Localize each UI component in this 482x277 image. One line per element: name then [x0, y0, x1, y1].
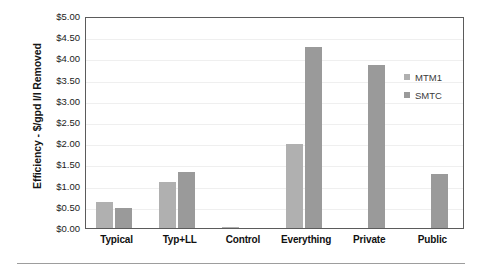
legend-swatch-icon — [404, 74, 410, 80]
y-axis-tick-label: $0.00 — [56, 223, 80, 234]
y-axis-tick-labels: $5.00$4.50$4.00$3.50$3.00$2.50$2.00$1.50… — [41, 16, 83, 229]
legend-swatch-icon — [404, 92, 410, 98]
y-axis-tick-label: $1.00 — [56, 180, 80, 191]
legend-item: MTM1 — [404, 68, 464, 86]
bar — [431, 174, 448, 229]
y-axis-tick-label: $0.50 — [56, 201, 80, 212]
legend-item-label: SMTC — [415, 90, 442, 101]
legend-item: SMTC — [404, 86, 464, 104]
bar-group — [276, 18, 339, 229]
bar-group — [149, 18, 212, 229]
y-axis-tick-label: $1.50 — [56, 159, 80, 170]
bar — [368, 65, 385, 229]
y-axis-tick-label: $2.50 — [56, 117, 80, 128]
x-axis-category-labels: TypicalTyp+LLControlEverythingPrivatePub… — [85, 234, 464, 254]
x-axis-category-label: Typical — [85, 234, 148, 245]
bar-chart: Efficiency - $/gpd I/I Removed $5.00$4.5… — [0, 0, 482, 277]
legend: MTM1SMTC — [404, 68, 464, 104]
y-axis-tick-label: $3.50 — [56, 74, 80, 85]
bar-group — [402, 18, 465, 229]
bar — [159, 182, 176, 229]
x-axis-category-label: Typ+LL — [148, 234, 211, 245]
bar — [178, 172, 195, 229]
x-axis-category-label: Public — [401, 234, 464, 245]
y-axis-tick-label: $4.50 — [56, 32, 80, 43]
bottom-divider — [17, 263, 465, 264]
bar — [305, 47, 322, 229]
bar-group — [212, 18, 275, 229]
legend-item-label: MTM1 — [415, 72, 442, 83]
bars-layer — [86, 18, 463, 229]
y-axis-tick-label: $4.00 — [56, 53, 80, 64]
plot-area — [85, 17, 464, 229]
x-axis-category-label: Everything — [275, 234, 338, 245]
x-axis-category-label: Control — [211, 234, 274, 245]
bar-group — [86, 18, 149, 229]
y-axis-tick-label: $5.00 — [56, 11, 80, 22]
bar — [96, 202, 113, 229]
bar — [115, 208, 132, 229]
x-axis-category-label: Private — [338, 234, 401, 245]
x-axis-line — [86, 228, 463, 229]
y-axis-tick-label: $3.00 — [56, 95, 80, 106]
bar-group — [339, 18, 402, 229]
bar — [286, 144, 303, 229]
y-axis-tick-label: $2.00 — [56, 138, 80, 149]
